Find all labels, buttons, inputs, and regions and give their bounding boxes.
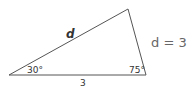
angle-label-left: 30° <box>27 65 43 75</box>
angle-label-right: 75° <box>129 65 145 75</box>
answer-text: d = 3 <box>151 35 187 50</box>
side-label-base: 3 <box>80 78 86 88</box>
side-label-d: d <box>66 27 75 41</box>
